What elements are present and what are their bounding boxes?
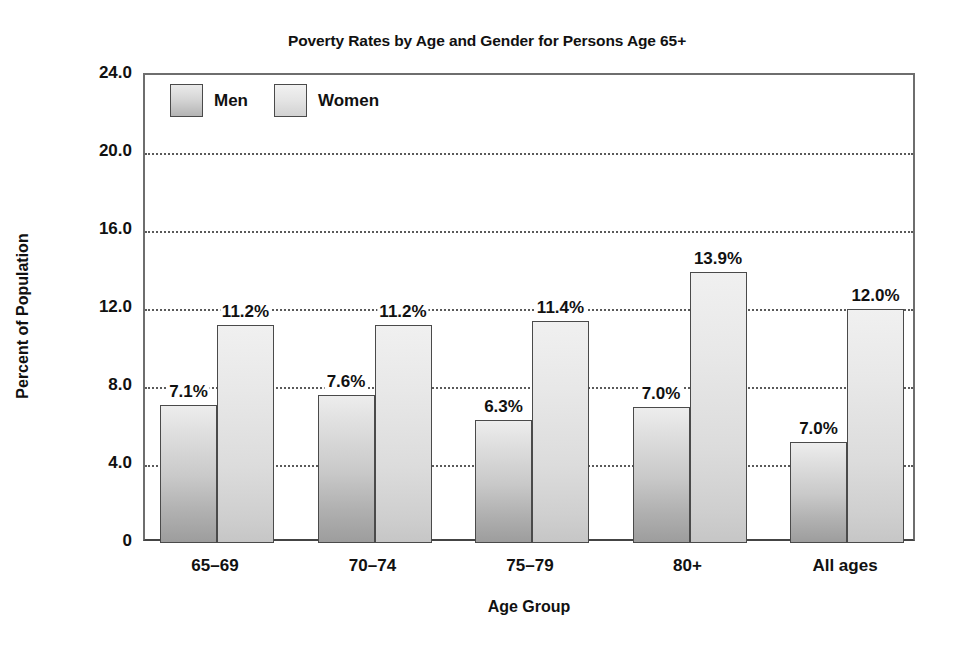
men-swatch — [170, 84, 203, 117]
bar-women-75–79 — [532, 321, 589, 543]
bar-women-All ages — [847, 309, 904, 543]
x-tick-All ages: All ages — [812, 556, 877, 576]
legend-entry-men[interactable]: Men — [170, 84, 248, 117]
bar-men-75–79 — [475, 420, 532, 543]
poverty-rates-bar-chart: Poverty Rates by Age and Gender for Pers… — [0, 0, 974, 649]
women-swatch — [274, 84, 307, 117]
bar-men-All ages — [790, 442, 847, 543]
bar-value-men-All ages: 7.0% — [797, 420, 840, 438]
bar-women-80+ — [690, 272, 747, 543]
bar-value-women-75–79: 11.4% — [535, 299, 586, 317]
bar-men-80+ — [633, 407, 690, 544]
bar-value-women-65–69: 11.2% — [220, 303, 271, 321]
legend-entry-women[interactable]: Women — [274, 84, 379, 117]
bar-value-men-75–79: 6.3% — [482, 398, 525, 416]
bar-value-women-70–74: 11.2% — [377, 303, 428, 321]
legend-label-men: Men — [214, 91, 248, 111]
x-tick-80+: 80+ — [673, 556, 702, 576]
x-tick-75–79: 75–79 — [506, 556, 553, 576]
x-tick-70–74: 70–74 — [349, 556, 396, 576]
x-tick-65–69: 65–69 — [191, 556, 238, 576]
bar-men-65–69 — [160, 405, 217, 543]
y-tick-24.0: 24.0 — [12, 63, 132, 83]
plot-area: 7.1%11.2%7.6%11.2%6.3%11.4%7.0%13.9%7.0%… — [143, 73, 915, 541]
y-tick-20.0: 20.0 — [12, 141, 132, 161]
bar-women-65–69 — [217, 325, 274, 543]
chart-legend: MenWomen — [170, 84, 379, 117]
y-tick-0: 0 — [12, 531, 132, 551]
bar-value-men-80+: 7.0% — [640, 385, 683, 403]
x-axis-title: Age Group — [143, 598, 915, 616]
bar-value-men-65–69: 7.1% — [167, 383, 210, 401]
bar-women-70–74 — [375, 325, 432, 543]
legend-label-women: Women — [318, 91, 379, 111]
y-axis-title: Percent of Population — [14, 186, 32, 446]
gridline-20.0 — [145, 153, 913, 155]
y-tick-4.0: 4.0 — [12, 453, 132, 473]
gridline-16.0 — [145, 231, 913, 233]
bar-value-men-70–74: 7.6% — [325, 373, 368, 391]
bar-value-women-80+: 13.9% — [692, 250, 744, 268]
bar-men-70–74 — [318, 395, 375, 543]
chart-title: Poverty Rates by Age and Gender for Pers… — [0, 32, 974, 50]
bar-value-women-All ages: 12.0% — [849, 287, 901, 305]
